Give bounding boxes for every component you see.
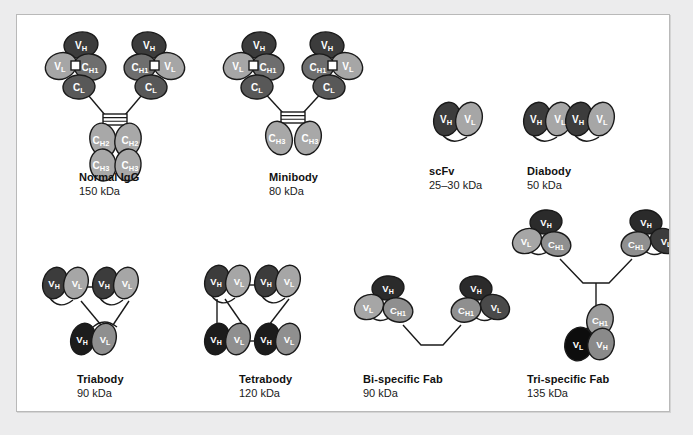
antibody-formats-figure: VH VL CH1 CL VH VL CH1 CL CH2 CH2 CH3 CH… [0, 0, 693, 435]
caption-triabody: Triabody 90 kDa [77, 373, 124, 400]
diabody-diagram: VH VL VH VL [515, 97, 655, 155]
construct-name: Normal IgG [79, 171, 139, 184]
construct-name: Tri-specific Fab [527, 373, 609, 386]
caption-trispecific-fab: Tri-specific Fab 135 kDa [527, 373, 609, 400]
construct-mass: 90 kDa [363, 387, 443, 400]
construct-mass: 120 kDa [239, 387, 292, 400]
construct-mass: 25–30 kDa [429, 179, 482, 192]
normal-igg-diagram: VH VL CH1 CL VH VL CH1 CL CH2 CH2 CH3 CH… [35, 23, 195, 171]
minibody-diagram: VH VL CH1 CL VH VL CH1 CL CH3 CH3 [213, 27, 373, 167]
construct-name: Bi-specific Fab [363, 373, 443, 386]
construct-mass: 50 kDa [527, 179, 571, 192]
trispecific-fab-diagram: VH VL CH1 VH VL CH1 CH1 VL VH [505, 207, 670, 372]
triabody-diagram: VH VL VH VL VH VL [33, 263, 203, 373]
caption-tetrabody: Tetrabody 120 kDa [239, 373, 292, 400]
construct-name: Diabody [527, 165, 571, 178]
bispecific-fab-diagram: VH VL CH1 VH VL CH1 [345, 273, 525, 373]
scfv-diagram: VH VL [421, 97, 511, 155]
construct-mass: 150 kDa [79, 185, 139, 198]
construct-mass: 80 kDa [269, 185, 318, 198]
construct-name: Triabody [77, 373, 124, 386]
tetrabody-diagram: VH VL VH VL VH VL VH VL [197, 263, 367, 373]
caption-scfv: scFv 25–30 kDa [429, 165, 482, 192]
caption-minibody: Minibody 80 kDa [269, 171, 318, 198]
construct-mass: 90 kDa [77, 387, 124, 400]
figure-panel: VH VL CH1 CL VH VL CH1 CL CH2 CH2 CH3 CH… [16, 14, 670, 412]
construct-name: scFv [429, 165, 482, 178]
construct-mass: 135 kDa [527, 387, 609, 400]
construct-name: Minibody [269, 171, 318, 184]
caption-diabody: Diabody 50 kDa [527, 165, 571, 192]
caption-bispecific-fab: Bi-specific Fab 90 kDa [363, 373, 443, 400]
construct-name: Tetrabody [239, 373, 292, 386]
caption-normal-igg: Normal IgG 150 kDa [79, 171, 139, 198]
